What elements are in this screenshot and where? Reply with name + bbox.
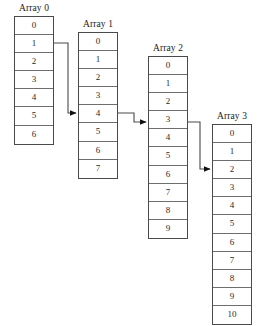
array-cell[interactable]: 5 xyxy=(149,147,187,165)
array-cell[interactable]: 3 xyxy=(79,87,117,105)
array-cell[interactable]: 0 xyxy=(213,125,251,143)
array-cell[interactable]: 8 xyxy=(213,270,251,288)
array-cell[interactable]: 9 xyxy=(149,220,187,238)
array-cell[interactable]: 2 xyxy=(149,93,187,111)
array-cell[interactable]: 1 xyxy=(213,143,251,161)
array-cell[interactable]: 6 xyxy=(79,142,117,160)
array-cell[interactable]: 5 xyxy=(79,123,117,141)
array-cell[interactable]: 3 xyxy=(149,111,187,129)
connector-array2-to-array3 xyxy=(188,122,210,169)
array-cell[interactable]: 1 xyxy=(149,75,187,93)
array-cell[interactable]: 0 xyxy=(15,17,53,35)
array-cell[interactable]: 6 xyxy=(213,234,251,252)
array-cell[interactable]: 4 xyxy=(213,197,251,215)
array-box-2: 0 1 2 3 4 5 6 7 8 9 xyxy=(148,56,188,239)
array-chain-diagram: Array 0 0 1 2 3 4 5 6 Array 1 0 1 2 3 4 … xyxy=(0,0,270,326)
array-cell[interactable]: 7 xyxy=(149,184,187,202)
array-cell[interactable]: 2 xyxy=(213,161,251,179)
array-box-3: 0 1 2 3 4 5 6 7 8 9 10 xyxy=(212,124,252,325)
connector-array1-to-array2 xyxy=(118,113,146,122)
array-box-1: 0 1 2 3 4 5 6 7 xyxy=(78,32,118,179)
array-cell[interactable]: 9 xyxy=(213,288,251,306)
array-cell[interactable]: 3 xyxy=(15,71,53,89)
array-cell[interactable]: 10 xyxy=(213,306,251,324)
array-cell[interactable]: 0 xyxy=(79,33,117,51)
array-cell[interactable]: 4 xyxy=(15,89,53,107)
array-cell[interactable]: 5 xyxy=(213,215,251,233)
array-group-2: Array 2 0 1 2 3 4 5 6 7 8 9 xyxy=(148,56,188,239)
array-cell[interactable]: 1 xyxy=(15,35,53,53)
array-cell[interactable]: 2 xyxy=(15,53,53,71)
array-cell[interactable]: 4 xyxy=(79,105,117,123)
array-cell[interactable]: 6 xyxy=(149,166,187,184)
array-cell[interactable]: 3 xyxy=(213,179,251,197)
array-label-2: Array 2 xyxy=(153,43,183,54)
array-cell[interactable]: 6 xyxy=(15,126,53,144)
array-label-1: Array 1 xyxy=(83,19,113,30)
array-cell[interactable]: 8 xyxy=(149,202,187,220)
array-box-0: 0 1 2 3 4 5 6 xyxy=(14,16,54,145)
array-cell[interactable]: 7 xyxy=(79,160,117,178)
array-label-3: Array 3 xyxy=(217,111,247,122)
array-group-0: Array 0 0 1 2 3 4 5 6 xyxy=(14,16,54,145)
array-cell[interactable]: 5 xyxy=(15,107,53,125)
array-cell[interactable]: 1 xyxy=(79,51,117,69)
array-cell[interactable]: 0 xyxy=(149,57,187,75)
array-cell[interactable]: 4 xyxy=(149,129,187,147)
connector-array0-to-array1 xyxy=(54,43,76,113)
array-label-0: Array 0 xyxy=(19,3,49,14)
array-cell[interactable]: 7 xyxy=(213,252,251,270)
array-cell[interactable]: 2 xyxy=(79,69,117,87)
array-group-1: Array 1 0 1 2 3 4 5 6 7 xyxy=(78,32,118,179)
array-group-3: Array 3 0 1 2 3 4 5 6 7 8 9 10 xyxy=(212,124,252,325)
